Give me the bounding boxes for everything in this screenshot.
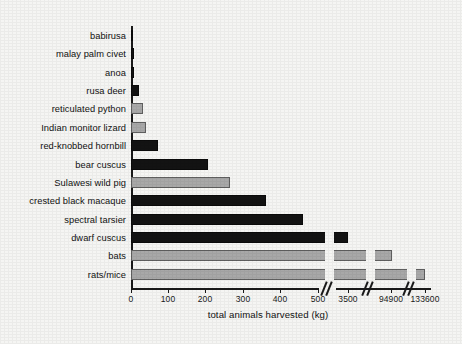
bar-break-notch-13-2 [407, 268, 416, 281]
category-label-rusa-deer: rusa deer [86, 86, 126, 96]
category-label-crested-black-macaque: crested black macaque [29, 196, 126, 206]
x-tick-5 [318, 288, 319, 293]
bar-dwarf-cuscus [131, 232, 348, 243]
x-tick-label-4: 400 [273, 294, 287, 304]
bar-bear-cuscus [131, 159, 208, 170]
chart-container: 0100200300400500350094900133600 babirusa… [0, 0, 462, 344]
x-tick-label-7: 94900 [379, 294, 403, 304]
category-label-rats-mice: rats/mice [88, 270, 126, 280]
category-label-anoa: anoa [105, 68, 126, 78]
x-tick-label-6: 3500 [338, 294, 357, 304]
bar-anoa [131, 67, 134, 78]
y-axis-line [131, 26, 133, 288]
category-label-babirusa: babirusa [90, 31, 126, 41]
bar-malay-palm-civet [131, 48, 134, 59]
bar-crested-black-macaque [131, 195, 266, 206]
category-label-spectral-tarsier: spectral tarsier [64, 215, 126, 225]
category-label-indian-monitor-lizard: Indian monitor lizard [41, 123, 126, 133]
x-tick-1 [168, 288, 169, 293]
x-tick-label-2: 200 [198, 294, 212, 304]
x-tick-label-1: 100 [161, 294, 175, 304]
category-label-bear-cuscus: bear cuscus [75, 160, 126, 170]
category-label-malay-palm-civet: malay palm civet [56, 49, 126, 59]
category-label-sulawesi-wild-pig: Sulawesi wild pig [54, 178, 126, 188]
bar-reticulated-python [131, 103, 143, 114]
x-tick-6 [348, 288, 349, 293]
x-tick-label-3: 300 [236, 294, 250, 304]
bar-indian-monitor-lizard [131, 122, 146, 133]
x-tick-label-5: 500 [311, 294, 325, 304]
category-label-dwarf-cuscus: dwarf cuscus [71, 233, 126, 243]
plot-area: 0100200300400500350094900133600 babirusa… [0, 0, 462, 344]
x-tick-4 [280, 288, 281, 293]
bar-babirusa [131, 30, 133, 41]
bar-rusa-deer [131, 85, 139, 96]
bar-red-knobbed-hornbill [131, 140, 158, 151]
x-tick-0 [131, 288, 132, 293]
x-tick-7 [391, 288, 392, 293]
x-tick-3 [243, 288, 244, 293]
bar-rats-mice [131, 269, 425, 280]
category-label-red-knobbed-hornbill: red-knobbed hornbill [40, 141, 126, 151]
category-label-bats: bats [108, 251, 126, 261]
x-tick-label-8: 133600 [411, 294, 440, 304]
x-axis-title: total animals harvested (kg) [0, 309, 462, 320]
x-tick-label-0: 0 [129, 294, 134, 304]
bar-bats [131, 250, 392, 261]
x-tick-8 [425, 288, 426, 293]
bar-spectral-tarsier [131, 214, 303, 225]
x-axis-title-text: total animals harvested (kg) [134, 309, 329, 320]
x-axis-segment-2 [377, 288, 418, 290]
bar-break-notch-13-0 [325, 268, 334, 281]
x-tick-2 [205, 288, 206, 293]
bar-break-notch-12-0 [325, 249, 334, 262]
x-axis-segment-0 [131, 288, 319, 290]
bar-sulawesi-wild-pig [131, 177, 230, 188]
x-axis-segment-1 [336, 288, 377, 290]
bar-break-notch-13-1 [366, 268, 375, 281]
category-label-reticulated-python: reticulated python [52, 104, 126, 114]
bar-break-notch-11-0 [325, 231, 334, 244]
bar-break-notch-12-1 [366, 249, 375, 262]
